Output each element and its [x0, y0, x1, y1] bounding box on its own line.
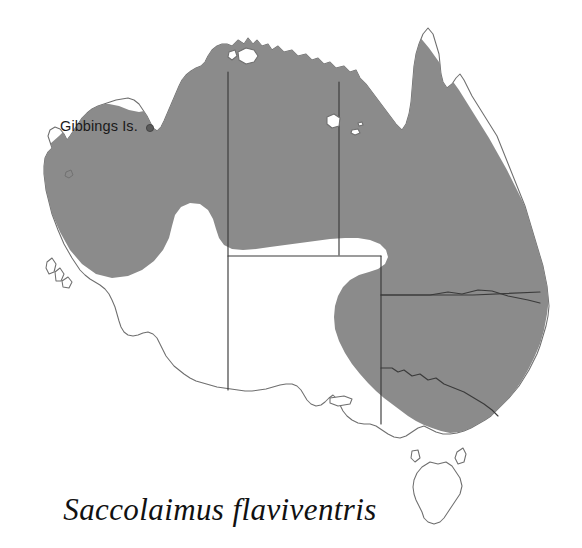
gibbings-island-label: Gibbings Is. [60, 118, 138, 134]
mornington-island [351, 129, 360, 135]
gulf-small-island [358, 122, 363, 126]
distribution-map-figure: Gibbings Is. Saccolaimus flaviventris [0, 0, 582, 548]
flinders-island [455, 448, 466, 464]
species-name-caption: Saccolaimus flaviventris [0, 492, 440, 528]
australia-map-svg [0, 0, 582, 548]
king-island [411, 450, 420, 462]
bernier-island [55, 268, 64, 281]
gibbings-island-dot [146, 124, 153, 131]
dirk-hartog-island [46, 258, 56, 274]
kangaroo-island [330, 396, 352, 406]
groote-eylandt [327, 114, 340, 128]
dorre-island [62, 277, 72, 288]
